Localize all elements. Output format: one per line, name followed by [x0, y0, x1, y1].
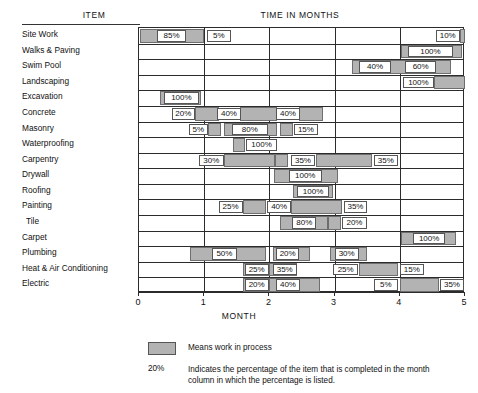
percentage-label: 100% — [403, 77, 434, 89]
percentage-label: 35% — [344, 201, 367, 213]
percentage-label: 25% — [245, 264, 269, 276]
percentage-label: 15% — [294, 124, 317, 136]
table-row: 100% — [139, 184, 463, 200]
percentage-label: 20% — [342, 217, 366, 229]
x-tick-4 — [399, 292, 400, 296]
table-row: 30%35%35% — [139, 153, 463, 169]
table-row: 100% — [139, 75, 463, 91]
percentage-label: 5% — [207, 30, 231, 42]
x-tick-5 — [464, 292, 465, 296]
row-label: Site Work — [22, 27, 136, 43]
percentage-label: 100% — [289, 170, 322, 182]
percentage-label: 35% — [291, 155, 315, 167]
row-label: Electric — [22, 276, 136, 292]
percent-description-label: Indicates the percentage of the item tha… — [188, 364, 448, 386]
table-row: 80%20% — [139, 215, 463, 231]
percentage-label: 100% — [297, 186, 330, 198]
time-in-months-header: TIME IN MONTHS — [190, 10, 410, 20]
row-label: Masonry — [22, 121, 136, 137]
percentage-label: 100% — [408, 46, 454, 58]
work-in-process-bar — [359, 263, 398, 277]
x-axis-line — [138, 292, 464, 293]
percentage-label: 100% — [164, 92, 199, 104]
gantt-chart-page: ITEM TIME IN MONTHS Site WorkWalks & Pav… — [0, 0, 478, 393]
percentage-label: 30% — [199, 155, 224, 167]
percent-sample-label: 20% — [148, 364, 164, 373]
work-in-process-swatch — [148, 342, 176, 355]
row-label: Drywall — [22, 167, 136, 183]
x-tick-label-2: 2 — [258, 297, 278, 307]
work-in-process-bar — [233, 138, 245, 152]
percentage-label: 30% — [335, 248, 359, 260]
percentage-label: 5% — [374, 279, 398, 291]
row-label: Carpet — [22, 230, 136, 246]
row-label: Landscaping — [22, 74, 136, 90]
table-row: 20%40%40% — [139, 106, 463, 122]
x-axis-title: MONTH — [0, 311, 478, 321]
percentage-label: 60% — [405, 61, 436, 73]
percentage-label: 35% — [273, 264, 297, 276]
table-row: 5%80%15% — [139, 122, 463, 138]
percentage-label: 35% — [440, 279, 463, 291]
row-label: Swim Pool — [22, 58, 136, 74]
percentage-label: 20% — [172, 108, 195, 120]
x-tick-label-1: 1 — [193, 297, 213, 307]
percentage-label: 15% — [400, 264, 424, 276]
x-tick-3 — [334, 292, 335, 296]
x-tick-0 — [138, 292, 139, 296]
work-in-process-bar — [291, 200, 343, 214]
table-row: 25%35%25%15% — [139, 262, 463, 278]
work-in-process-label: Means work in process — [188, 343, 272, 352]
percentage-label: 40% — [276, 108, 300, 120]
percentage-label: 5% — [189, 124, 209, 136]
row-label: Carpentry — [22, 152, 136, 168]
work-in-process-bar — [208, 123, 221, 137]
x-tick-label-4: 4 — [389, 297, 409, 307]
work-in-process-bar — [275, 154, 288, 168]
x-tick-2 — [268, 292, 269, 296]
work-in-process-bar — [328, 216, 341, 230]
x-tick-label-3: 3 — [324, 297, 344, 307]
percentage-label: 20% — [276, 248, 299, 260]
percentage-label: 50% — [212, 248, 237, 260]
percentage-label: 40% — [217, 108, 240, 120]
percentage-label: 40% — [267, 201, 290, 213]
percentage-label: 80% — [292, 217, 316, 229]
item-header-rule — [22, 24, 140, 25]
table-row: 100% — [139, 44, 463, 60]
table-row: 100% — [139, 168, 463, 184]
x-tick-label-0: 0 — [128, 297, 148, 307]
percentage-label: 80% — [232, 124, 269, 136]
table-row: 50%20%30% — [139, 246, 463, 262]
work-in-process-bar — [195, 107, 218, 121]
percentage-label: 85% — [157, 30, 186, 42]
work-in-process-bar — [460, 29, 465, 43]
percentage-label: 40% — [276, 279, 300, 291]
work-in-process-bar — [224, 154, 275, 168]
work-in-process-bar — [434, 76, 465, 90]
table-row: 100% — [139, 231, 463, 247]
row-label: Waterproofing — [22, 136, 136, 152]
table-row: 20%40%5%35% — [139, 277, 463, 293]
row-label: Roofing — [22, 183, 136, 199]
row-label: Walks & Paving — [22, 43, 136, 59]
percentage-label: 40% — [359, 61, 390, 73]
percentage-label: 100% — [246, 139, 277, 151]
work-in-process-bar — [299, 107, 322, 121]
work-in-process-bar — [243, 200, 266, 214]
work-in-process-bar — [316, 154, 372, 168]
row-label: Concrete — [22, 105, 136, 121]
percentage-label: 35% — [374, 155, 398, 167]
percentage-label: 20% — [245, 279, 269, 291]
percentage-label: 25% — [219, 201, 243, 213]
table-row: 85%5%10% — [139, 28, 463, 44]
work-in-process-bar — [240, 107, 277, 121]
table-row: 25%40%35% — [139, 199, 463, 215]
row-label: Painting — [22, 198, 136, 214]
chart-plot-area: 85%5%10%100%40%60%100%100%20%40%40%5%80%… — [138, 27, 464, 292]
row-label: Heat & Air Conditioning — [22, 261, 136, 277]
x-tick-1 — [203, 292, 204, 296]
percentage-label: 10% — [436, 30, 460, 42]
table-row: 100% — [139, 137, 463, 153]
x-tick-label-5: 5 — [454, 297, 474, 307]
